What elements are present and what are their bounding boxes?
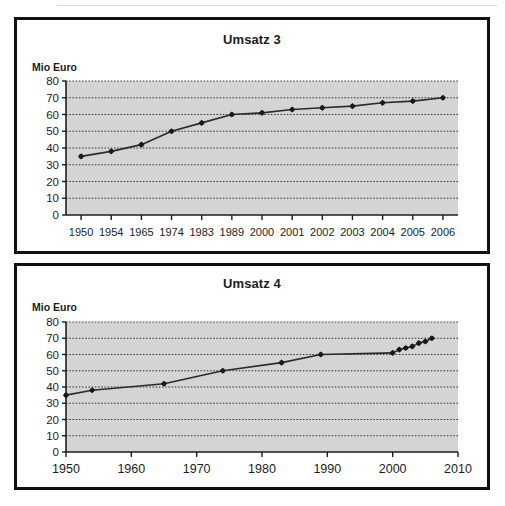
svg-text:2001: 2001 <box>280 226 304 238</box>
svg-text:2003: 2003 <box>340 226 364 238</box>
svg-text:1960: 1960 <box>117 462 145 476</box>
y-axis-unit-label-1: Mio Euro <box>32 61 77 73</box>
svg-text:50: 50 <box>46 125 59 137</box>
svg-text:1954: 1954 <box>99 226 123 238</box>
chart-title-umsatz-4: Umsatz 4 <box>17 276 487 291</box>
chart-panel-umsatz-4: Umsatz 4 Mio Euro 0102030405060708019501… <box>14 263 490 490</box>
svg-text:10: 10 <box>46 430 59 442</box>
svg-text:1974: 1974 <box>159 226 183 238</box>
svg-text:1950: 1950 <box>69 226 93 238</box>
svg-text:2004: 2004 <box>370 226 394 238</box>
y-axis-unit-label-2: Mio Euro <box>32 301 77 313</box>
svg-text:1990: 1990 <box>313 462 341 476</box>
svg-text:2005: 2005 <box>401 226 425 238</box>
svg-text:2006: 2006 <box>431 226 455 238</box>
svg-text:40: 40 <box>46 381 59 393</box>
svg-text:10: 10 <box>46 192 59 204</box>
svg-text:0: 0 <box>53 446 59 458</box>
svg-text:50: 50 <box>46 365 59 377</box>
chart-panel-umsatz-3: Umsatz 3 Mio Euro 0102030405060708019501… <box>14 17 490 254</box>
svg-text:60: 60 <box>46 349 59 361</box>
top-divider-rule <box>57 5 497 6</box>
svg-text:80: 80 <box>46 77 59 87</box>
svg-text:1983: 1983 <box>189 226 213 238</box>
svg-text:2000: 2000 <box>379 462 407 476</box>
plot-area-umsatz-3: 0102030405060708019501954196519741983198… <box>36 77 480 249</box>
svg-text:1970: 1970 <box>183 462 211 476</box>
svg-text:70: 70 <box>46 332 59 344</box>
svg-text:2002: 2002 <box>310 226 334 238</box>
svg-text:40: 40 <box>46 142 59 154</box>
svg-text:20: 20 <box>46 414 59 426</box>
svg-text:0: 0 <box>53 209 59 221</box>
line-chart-umsatz-3: 0102030405060708019501954196519741983198… <box>36 77 480 249</box>
svg-text:30: 30 <box>46 159 59 171</box>
svg-text:70: 70 <box>46 92 59 104</box>
svg-text:2000: 2000 <box>250 226 274 238</box>
svg-text:2010: 2010 <box>444 462 472 476</box>
svg-text:1980: 1980 <box>248 462 276 476</box>
line-chart-umsatz-4: 0102030405060708019501960197019801990200… <box>36 318 480 486</box>
svg-text:20: 20 <box>46 176 59 188</box>
svg-text:30: 30 <box>46 397 59 409</box>
svg-text:1989: 1989 <box>220 226 244 238</box>
svg-text:80: 80 <box>46 318 59 328</box>
svg-text:1950: 1950 <box>52 462 80 476</box>
page-root: Umsatz 3 Mio Euro 0102030405060708019501… <box>0 0 505 506</box>
chart-title-umsatz-3: Umsatz 3 <box>17 32 487 47</box>
plot-area-umsatz-4: 0102030405060708019501960197019801990200… <box>36 318 480 486</box>
svg-text:60: 60 <box>46 109 59 121</box>
svg-text:1965: 1965 <box>129 226 153 238</box>
